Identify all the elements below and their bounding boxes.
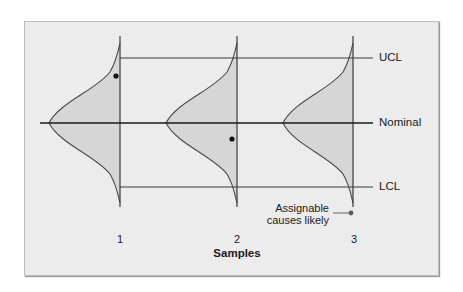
data-point-sample-2 — [229, 136, 234, 141]
samples-axis-title: Samples — [213, 248, 260, 260]
sample-tick-1: 1 — [117, 234, 123, 245]
nominal-label: Nominal — [379, 117, 421, 129]
annotation-dot — [349, 211, 354, 216]
annotation-text: Assignable causes likely — [267, 202, 329, 226]
sample-tick-2: 2 — [234, 234, 240, 245]
ucl-label: UCL — [379, 52, 402, 64]
annotation-line-1: Assignable — [267, 202, 329, 214]
annotation-line-2: causes likely — [267, 214, 329, 226]
lcl-label: LCL — [379, 181, 400, 193]
sample-tick-3: 3 — [351, 234, 357, 245]
data-point-sample-1 — [113, 73, 118, 78]
